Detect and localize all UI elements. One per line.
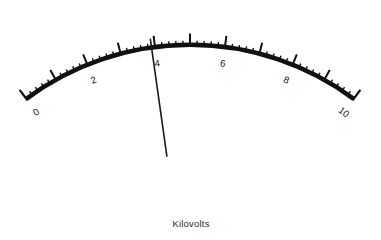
tick-minor [147,44,148,50]
tick-minor [218,42,219,48]
tick-marks-group [20,34,361,101]
gauge-widget: 0246810 Kilovolts [0,0,381,240]
gauge-canvas: 0246810 Kilovolts [0,0,381,240]
tick-minor [162,42,163,48]
scale-arc [26,45,353,99]
tick-end [20,90,28,100]
tick-end [353,90,361,100]
unit-caption: Kilovolts [172,218,209,229]
scale-label-2: 2 [89,74,98,86]
scale-label-10: 10 [336,104,351,119]
scale-label-0: 0 [31,106,42,118]
scale-label-6: 6 [220,57,227,69]
scale-label-8: 8 [282,74,291,86]
tick-minor [232,44,233,50]
scale-arc-band [26,45,353,99]
